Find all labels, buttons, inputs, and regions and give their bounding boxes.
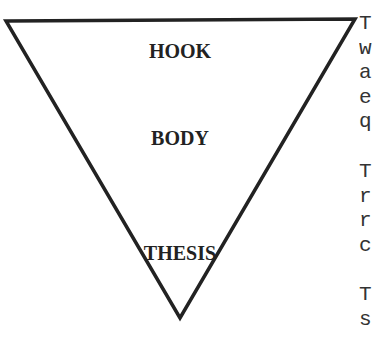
- side-paragraph-2: T r r c: [359, 160, 372, 258]
- side-text-line: T: [359, 12, 372, 37]
- thesis-label: THESIS: [144, 242, 216, 265]
- side-text-line: r: [359, 185, 372, 210]
- side-text-line: T: [359, 283, 372, 308]
- side-text-line: a: [359, 61, 372, 86]
- side-text-line: w: [359, 37, 372, 62]
- side-text-line: q: [359, 110, 372, 135]
- body-label: BODY: [151, 127, 209, 150]
- side-text-line: e: [359, 86, 372, 111]
- side-text-line: T: [359, 160, 372, 185]
- hook-label: HOOK: [149, 40, 211, 63]
- side-text-line: s: [359, 308, 372, 333]
- side-text-line: c: [359, 234, 372, 259]
- side-paragraph-3: T s: [359, 283, 372, 332]
- side-text-line: r: [359, 209, 372, 234]
- side-paragraph-1: T w a e q: [359, 12, 372, 135]
